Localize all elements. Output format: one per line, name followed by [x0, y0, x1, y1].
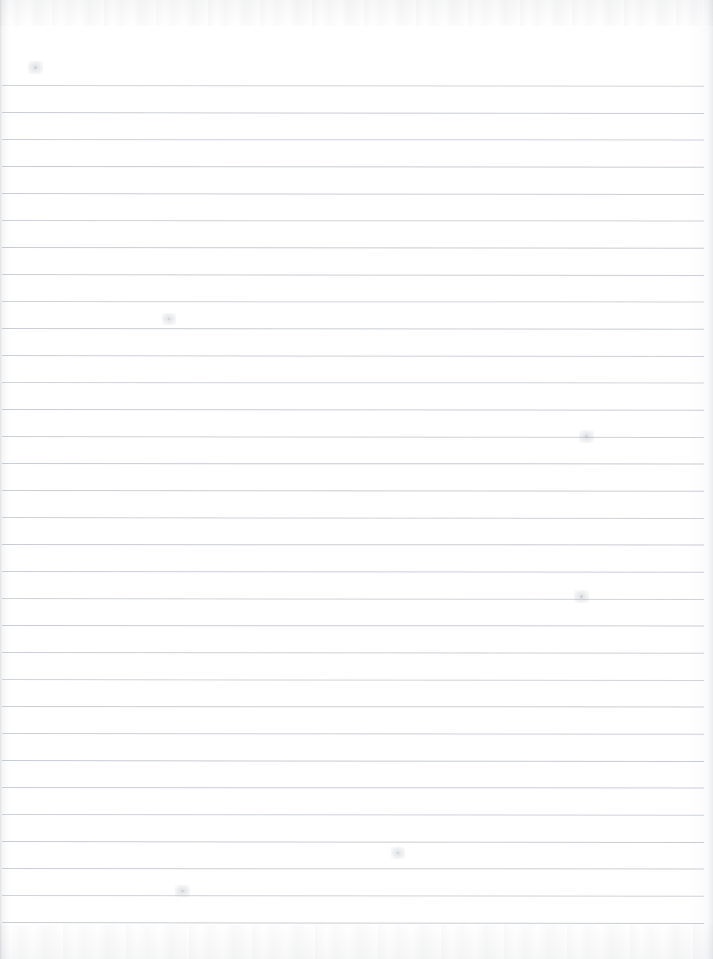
- rule-line: [2, 625, 704, 626]
- rule-line: [2, 193, 704, 195]
- rule-line: [2, 112, 704, 114]
- rule-line: [2, 355, 704, 357]
- rule-line: [2, 139, 704, 140]
- rule-line: [2, 544, 704, 545]
- rule-line: [2, 571, 704, 573]
- rule-line: [2, 463, 704, 464]
- rule-line: [2, 760, 704, 762]
- rule-line: [2, 598, 704, 600]
- rule-line: [2, 409, 704, 411]
- rule-line: [2, 733, 704, 735]
- rule-line: [2, 922, 704, 924]
- ruled-lines-group: [0, 0, 713, 959]
- rule-line: [2, 166, 704, 168]
- rule-line: [2, 247, 704, 249]
- rule-line: [2, 490, 704, 492]
- rule-line: [2, 679, 704, 681]
- rule-line: [2, 706, 704, 707]
- rule-line: [2, 841, 704, 843]
- rule-line: [2, 814, 704, 816]
- rule-line: [2, 328, 704, 330]
- rule-line: [2, 301, 704, 302]
- rule-line: [2, 652, 704, 654]
- rule-line: [2, 274, 704, 276]
- rule-line: [2, 787, 704, 788]
- rule-line: [2, 436, 704, 438]
- scanned-page: [0, 0, 713, 959]
- rule-line: [2, 517, 704, 519]
- rule-line: [2, 895, 704, 897]
- rule-line: [2, 220, 704, 221]
- rule-line: [2, 85, 704, 87]
- rule-line: [2, 868, 704, 869]
- rule-line: [2, 382, 704, 383]
